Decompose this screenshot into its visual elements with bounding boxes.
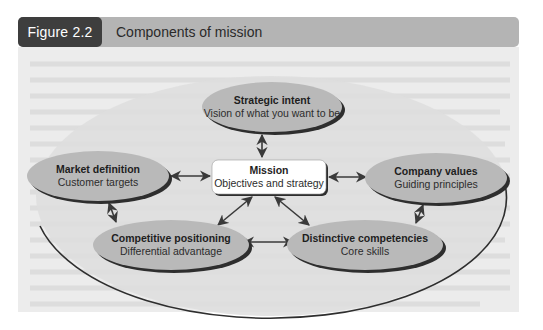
node-competitive-positioning: Competitive positioning Differential adv…: [111, 232, 231, 258]
node-market-definition: Market definition Customer targets: [56, 163, 140, 189]
node-subtitle: Core skills: [302, 245, 428, 258]
node-strategic-intent: Strategic intent Vision of what you want…: [204, 94, 340, 120]
node-title: Market definition: [56, 163, 140, 176]
node-subtitle: Differential advantage: [111, 245, 231, 258]
node-subtitle: Vision of what you want to be: [204, 107, 340, 120]
node-company-values: Company values Guiding principles: [394, 165, 477, 191]
node-title: Distinctive competencies: [302, 232, 428, 245]
node-title: Company values: [394, 165, 477, 178]
node-title: Competitive positioning: [111, 232, 231, 245]
node-distinctive-competencies: Distinctive competencies Core skills: [302, 232, 428, 258]
node-mission: Mission Objectives and strategy: [214, 164, 324, 190]
node-subtitle: Objectives and strategy: [214, 177, 324, 190]
node-subtitle: Guiding principles: [394, 178, 477, 191]
node-subtitle: Customer targets: [56, 176, 140, 189]
node-title: Mission: [214, 164, 324, 177]
node-title: Strategic intent: [204, 94, 340, 107]
